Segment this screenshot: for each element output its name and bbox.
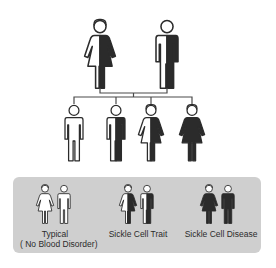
- legend-label-trait-text: Sickle Cell Trait: [100, 229, 176, 239]
- legend-label-typical-line2: ( No Blood Disorder): [20, 239, 90, 249]
- legend-label-typical-line1: Typical: [20, 229, 90, 239]
- legend-typical-male-icon: [58, 185, 70, 223]
- legend-label-typical: Typical ( No Blood Disorder): [20, 229, 90, 249]
- legend-figures: [0, 0, 276, 268]
- legend-disease-male-icon: [222, 185, 234, 223]
- legend-typical-female-icon: [36, 185, 53, 224]
- legend-label-disease: Sickle Cell Disease: [181, 229, 261, 239]
- legend-trait-female-icon: [119, 185, 136, 224]
- legend-trait-male-icon: [141, 185, 153, 223]
- legend-label-disease-text: Sickle Cell Disease: [181, 229, 261, 239]
- legend-disease-female-icon: [200, 185, 217, 224]
- legend-label-trait: Sickle Cell Trait: [100, 229, 176, 239]
